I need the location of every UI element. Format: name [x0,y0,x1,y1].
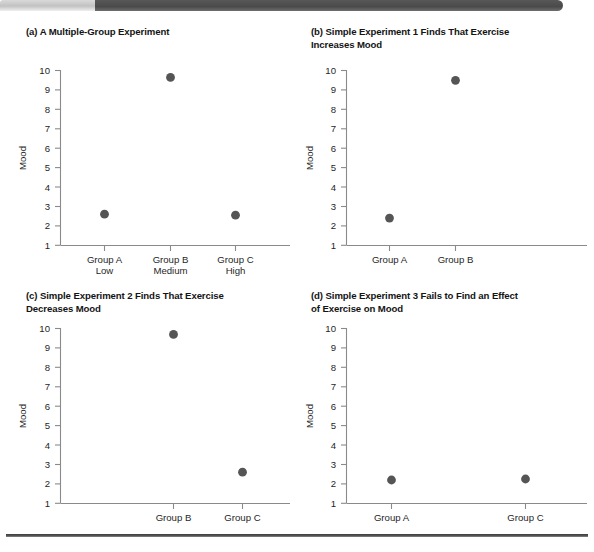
data-point [169,330,178,339]
y-axis-title: Mood [304,404,315,428]
y-tick-marks [341,71,347,246]
data-point [100,210,109,219]
y-tick-label-5: 5 [45,162,50,173]
y-tick-label-2: 2 [331,478,336,489]
chart-panel-b: (b) Simple Experiment 1 Finds That Exerc… [297,14,594,282]
x-tick-label-group-c: Group C [507,512,543,523]
y-tick-label-1: 1 [45,240,50,251]
y-tick-label-8: 8 [331,104,336,115]
data-point [387,476,396,485]
panel-a-plot-area: 10 9 8 7 6 5 4 3 2 1 Mood Group A Low Gr… [0,40,297,280]
y-tick-label-7: 7 [45,381,50,392]
y-tick-label-7: 7 [45,123,50,134]
y-tick-label-7: 7 [331,123,336,134]
x-tick-label-group-b: Group B [156,512,192,523]
x-tick-sublabel-high: High [226,265,246,276]
panel-d-plot-area: 10 9 8 7 6 5 4 3 2 1 Mood Group A Group … [297,308,594,534]
x-tick-label-group-a: Group A [372,254,408,265]
y-tick-label-1: 1 [45,498,50,509]
y-tick-label-2: 2 [45,220,50,231]
y-tick-label-8: 8 [45,104,50,115]
y-tick-label-3: 3 [331,201,336,212]
banner-dark-segment [95,0,563,11]
y-tick-label-6: 6 [45,143,50,154]
data-point [521,475,530,484]
y-tick-label-7: 7 [331,381,336,392]
chart-panel-a: (a) A Multiple-Group Experiment 10 [0,14,297,282]
page-header-banner [0,0,594,14]
y-tick-label-6: 6 [331,401,336,412]
y-tick-label-3: 3 [45,459,50,470]
x-tick-label-group-c: Group C [224,512,260,523]
panel-a-title: (a) A Multiple-Group Experiment [26,26,286,39]
x-tick-marks [174,504,243,510]
y-tick-label-5: 5 [45,420,50,431]
y-axis-title: Mood [17,404,28,428]
y-tick-label-5: 5 [331,420,336,431]
panel-b-plot-area: 10 9 8 7 6 5 4 3 2 1 Mood Group A Group … [297,44,594,279]
x-tick-label-group-b: Group B [153,254,189,265]
y-tick-label-4: 4 [331,182,337,193]
y-tick-label-9: 9 [45,84,50,95]
data-point [385,214,394,223]
y-tick-marks [55,71,61,246]
y-tick-label-4: 4 [45,440,51,451]
data-point [238,468,247,477]
y-tick-label-9: 9 [45,342,50,353]
y-tick-marks [341,329,347,504]
x-tick-marks [105,246,236,252]
y-tick-label-9: 9 [331,84,336,95]
y-tick-label-6: 6 [45,401,50,412]
data-point [231,211,240,220]
y-tick-label-10: 10 [325,323,336,334]
y-tick-label-6: 6 [331,143,336,154]
x-tick-label-group-b: Group B [438,254,474,265]
y-axis-title: Mood [17,146,28,170]
x-tick-sublabel-medium: Medium [153,265,187,276]
y-tick-label-1: 1 [331,240,336,251]
data-point [166,73,175,82]
y-tick-label-8: 8 [331,362,336,373]
x-tick-label-group-a: Group A [374,512,410,523]
y-tick-label-2: 2 [331,220,336,231]
x-tick-label-group-a: Group A [87,254,123,265]
chart-panel-c: (c) Simple Experiment 2 Finds That Exerc… [0,282,297,534]
y-tick-label-4: 4 [45,182,51,193]
x-tick-marks [390,246,456,252]
banner-light-segment [0,0,110,11]
y-tick-label-1: 1 [331,498,336,509]
panel-c-plot-area: 10 9 8 7 6 5 4 3 2 1 Mood Group B Group … [0,308,297,534]
y-tick-label-10: 10 [39,323,50,334]
data-point [451,76,460,85]
y-tick-label-2: 2 [45,478,50,489]
x-tick-label-group-c: Group C [217,254,253,265]
page-footer-rule [6,534,588,537]
x-tick-sublabel-low: Low [96,265,114,276]
y-tick-label-10: 10 [39,65,50,76]
y-tick-label-3: 3 [331,459,336,470]
y-tick-label-9: 9 [331,342,336,353]
y-tick-label-8: 8 [45,362,50,373]
y-tick-label-10: 10 [325,65,336,76]
chart-panel-d: (d) Simple Experiment 3 Fails to Find an… [297,282,594,534]
y-axis-title: Mood [304,146,315,170]
y-tick-label-4: 4 [331,440,337,451]
x-tick-marks [392,504,526,510]
y-tick-label-3: 3 [45,201,50,212]
y-tick-label-5: 5 [331,162,336,173]
y-tick-marks [55,329,61,504]
